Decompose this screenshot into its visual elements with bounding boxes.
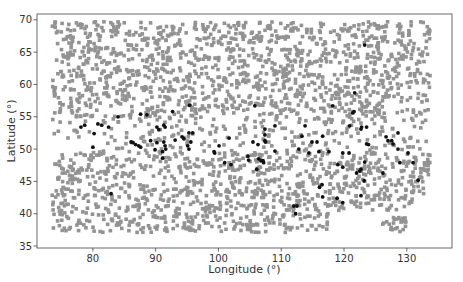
data-point xyxy=(111,184,115,188)
data-point xyxy=(256,82,260,86)
data-point xyxy=(364,114,368,118)
data-point xyxy=(419,72,423,76)
data-point xyxy=(373,56,377,60)
y-tick-label: 40 xyxy=(19,208,32,219)
data-point xyxy=(334,92,338,96)
data-point xyxy=(418,147,422,151)
data-point xyxy=(157,52,161,56)
data-point xyxy=(222,112,226,116)
data-point xyxy=(366,104,370,108)
data-point xyxy=(117,120,121,124)
data-point xyxy=(279,112,283,116)
data-point xyxy=(262,100,266,104)
highlighted-point xyxy=(263,127,267,131)
data-point xyxy=(214,99,218,103)
data-point xyxy=(224,228,228,232)
data-point xyxy=(89,40,93,44)
data-point xyxy=(391,162,395,166)
data-point xyxy=(242,48,246,52)
data-point xyxy=(412,46,416,50)
data-point xyxy=(397,52,401,56)
data-point xyxy=(165,25,169,29)
data-point xyxy=(386,95,390,99)
data-point xyxy=(305,207,309,211)
data-point xyxy=(329,120,333,124)
data-point xyxy=(84,31,88,35)
data-point xyxy=(345,102,349,106)
data-point xyxy=(190,108,194,112)
data-point xyxy=(338,97,342,101)
data-point xyxy=(172,219,176,223)
data-point xyxy=(336,78,340,82)
data-point xyxy=(60,213,64,217)
data-point xyxy=(364,110,368,114)
data-point xyxy=(96,171,100,175)
data-point xyxy=(189,215,193,219)
data-point xyxy=(135,48,139,52)
data-point xyxy=(57,129,61,133)
data-point xyxy=(226,189,230,193)
data-point xyxy=(287,226,291,230)
data-point xyxy=(352,77,356,81)
data-point xyxy=(274,40,278,44)
data-point xyxy=(231,62,235,66)
data-point xyxy=(243,63,247,67)
data-point xyxy=(62,88,66,92)
data-point xyxy=(160,109,164,113)
data-point xyxy=(143,168,147,172)
highlighted-point xyxy=(315,140,319,144)
data-point xyxy=(179,171,183,175)
data-point xyxy=(131,69,135,73)
data-point xyxy=(58,120,62,124)
data-point xyxy=(182,79,186,83)
data-point xyxy=(286,152,290,156)
data-point xyxy=(91,212,95,216)
data-point xyxy=(330,111,334,115)
data-point xyxy=(186,100,190,104)
data-point xyxy=(187,135,191,139)
data-point xyxy=(369,23,373,27)
data-point xyxy=(258,113,262,117)
data-point xyxy=(122,54,126,58)
data-point xyxy=(267,219,271,223)
highlighted-point xyxy=(227,136,231,140)
data-point xyxy=(169,85,173,89)
data-point xyxy=(141,196,145,200)
data-point xyxy=(270,39,274,43)
data-point xyxy=(316,177,320,181)
data-point xyxy=(63,171,67,175)
data-point xyxy=(272,69,276,73)
data-point xyxy=(147,189,151,193)
data-point xyxy=(183,221,187,225)
data-point xyxy=(139,163,143,167)
highlighted-point xyxy=(161,156,165,160)
data-point xyxy=(147,76,151,80)
data-point xyxy=(407,43,411,47)
data-point xyxy=(125,32,129,36)
data-point xyxy=(385,208,389,212)
data-point xyxy=(263,29,267,33)
data-point xyxy=(84,101,88,105)
data-point xyxy=(171,69,175,73)
data-point xyxy=(234,207,238,211)
data-point xyxy=(159,33,163,37)
data-point xyxy=(217,30,221,34)
data-point xyxy=(217,158,221,162)
data-point xyxy=(346,29,350,33)
data-point xyxy=(150,63,154,67)
data-point xyxy=(357,161,361,165)
data-point xyxy=(427,81,431,85)
data-point xyxy=(125,84,129,88)
data-point xyxy=(352,24,356,28)
data-point xyxy=(102,187,106,191)
highlighted-point xyxy=(406,151,410,155)
data-point xyxy=(263,96,267,100)
data-point xyxy=(113,51,117,55)
data-point xyxy=(82,62,86,66)
data-point xyxy=(154,72,158,76)
highlighted-point xyxy=(155,141,159,145)
data-point xyxy=(286,63,290,67)
data-point xyxy=(341,155,345,159)
data-point xyxy=(254,202,258,206)
data-point xyxy=(199,115,203,119)
